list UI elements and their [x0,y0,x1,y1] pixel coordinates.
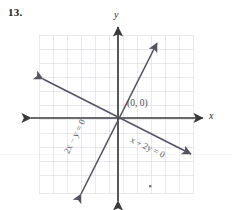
axis-lines [31,27,203,201]
origin-point-label: (0, 0) [127,98,148,108]
grid-lines [39,35,194,194]
x-axis-label: x [209,110,213,121]
coordinate-graph [0,0,232,210]
stray-mark [149,185,151,187]
y-axis-label: y [114,9,118,20]
